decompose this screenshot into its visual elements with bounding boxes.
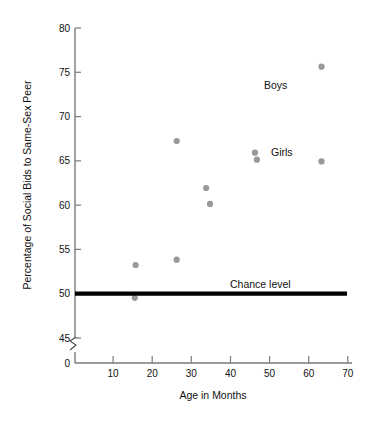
series-girls-point <box>207 201 213 207</box>
y-tick-label-55: 55 <box>59 244 71 255</box>
y-tick-marks <box>75 28 81 338</box>
series-boys-point <box>318 64 324 70</box>
axes-group <box>70 28 352 363</box>
y-axis-origin-label: 0 <box>64 358 70 369</box>
y-axis-title: Percentage of Social Bids to Same-Sex Pe… <box>21 80 33 289</box>
x-axis-title: Age in Months <box>179 389 246 401</box>
y-tick-label-50: 50 <box>59 288 71 299</box>
x-tick-marks <box>113 356 348 363</box>
x-tick-label-10: 10 <box>108 368 120 379</box>
series-girls-point <box>318 158 324 164</box>
series-label-boys: Boys <box>264 79 287 91</box>
series-boys-point <box>252 150 258 156</box>
x-tick-label-20: 20 <box>147 368 159 379</box>
series-boys-point <box>203 185 209 191</box>
series-boys-line <box>136 67 322 265</box>
x-tick-label-70: 70 <box>342 368 354 379</box>
chart-container: 80 75 70 65 60 55 50 45 0 10 20 30 40 50 <box>0 0 375 421</box>
y-tick-label-60: 60 <box>59 200 71 211</box>
series-girls-point <box>174 257 180 263</box>
series-girls-point <box>254 157 260 163</box>
series-girls-line <box>135 160 322 298</box>
series-boys-point <box>133 262 139 268</box>
x-tick-label-50: 50 <box>264 368 276 379</box>
line-chart: 80 75 70 65 60 55 50 45 0 10 20 30 40 50 <box>0 0 375 421</box>
x-tick-label-60: 60 <box>303 368 315 379</box>
axis-break-icon <box>70 337 76 350</box>
series-girls <box>132 157 325 301</box>
series-label-girls: Girls <box>271 146 293 158</box>
x-tick-label-30: 30 <box>186 368 198 379</box>
series-boys-point <box>174 138 180 144</box>
y-tick-labels: 80 75 70 65 60 55 50 45 0 <box>59 23 71 369</box>
y-tick-label-65: 65 <box>59 155 71 166</box>
y-tick-label-70: 70 <box>59 111 71 122</box>
x-tick-labels: 10 20 30 40 50 60 70 <box>108 368 354 379</box>
chance-level-label: Chance level <box>230 278 291 290</box>
y-tick-label-45: 45 <box>59 333 71 344</box>
series-boys <box>133 64 325 269</box>
y-tick-label-80: 80 <box>59 23 71 34</box>
x-tick-label-40: 40 <box>225 368 237 379</box>
y-tick-label-75: 75 <box>59 67 71 78</box>
